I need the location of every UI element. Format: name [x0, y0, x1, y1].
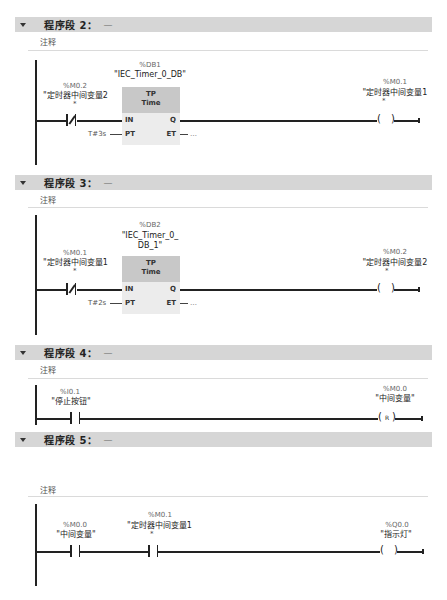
output-coil-icon[interactable]: (): [377, 114, 395, 126]
collapse-triangle-icon[interactable]: [20, 438, 26, 442]
wire: [36, 120, 66, 122]
timer-instance-name[interactable]: "IEC_Timer_0_DB": [105, 70, 195, 79]
pin-et: ET: [166, 130, 176, 138]
contact-address: %I0.1: [45, 388, 95, 397]
network-5-header[interactable]: 程序段 5： —: [15, 432, 432, 447]
network-title: 程序段 2：: [44, 17, 97, 32]
output-coil-icon[interactable]: (): [377, 283, 395, 295]
wire: [36, 551, 70, 553]
timer-type: TP: [122, 90, 180, 98]
separator: [28, 50, 428, 51]
contact1-symbol[interactable]: "中间变量": [45, 530, 107, 539]
contact1-address: %M0.0: [50, 521, 100, 530]
timer-instance-name[interactable]: "IEC_Timer_0_: [105, 231, 195, 240]
symbol-continuation: *: [73, 100, 77, 108]
pin-et: ET: [166, 299, 176, 307]
right-rail-end: [418, 287, 420, 292]
output-coil-icon[interactable]: (): [380, 545, 398, 557]
collapse-triangle-icon[interactable]: [20, 181, 26, 185]
pt-value[interactable]: T#2s: [88, 299, 106, 307]
timer-instance-name-cont[interactable]: DB_1": [105, 241, 195, 250]
collapse-triangle-icon[interactable]: [20, 351, 26, 355]
symbol-continuation: *: [150, 530, 154, 538]
wire: [110, 303, 122, 304]
network-comment[interactable]: 注释: [40, 364, 56, 375]
normally-open-contact-icon[interactable]: [148, 545, 158, 557]
right-rail-end: [422, 549, 424, 554]
collapse-triangle-icon[interactable]: [20, 23, 26, 27]
wire: [80, 551, 148, 553]
right-rail-end: [418, 118, 420, 123]
et-value[interactable]: …: [190, 130, 197, 138]
tp-timer-block[interactable]: TP Time IN PT Q ET: [122, 256, 180, 314]
coil-address: %M0.0: [370, 385, 420, 394]
wire: [36, 289, 66, 291]
coil-symbol[interactable]: "指示灯": [365, 530, 427, 539]
network-comment[interactable]: 注释: [40, 484, 56, 495]
symbol-continuation: *: [73, 267, 77, 275]
pin-q: Q: [170, 116, 176, 124]
coil-address: %M0.2: [370, 248, 420, 257]
wire: [180, 134, 188, 135]
network-title-placeholder[interactable]: —: [103, 178, 112, 188]
timer-header: TP Time: [122, 87, 180, 113]
coil-address: %Q0.0: [372, 521, 422, 530]
wire: [180, 120, 377, 122]
timer-datatype: Time: [122, 99, 180, 107]
coil-symbol[interactable]: "定时器中间变量1: [345, 88, 445, 97]
normally-closed-contact-icon[interactable]: [66, 283, 76, 295]
wire: [394, 120, 418, 122]
wire: [395, 418, 421, 420]
pin-in: IN: [125, 116, 133, 124]
wire: [80, 418, 378, 420]
contact2-address: %M0.1: [135, 511, 185, 520]
timer-header: TP Time: [122, 256, 180, 282]
reset-coil-icon[interactable]: (R): [378, 412, 396, 424]
network-comment[interactable]: 注释: [40, 194, 56, 205]
wire: [397, 551, 422, 553]
pin-pt: PT: [125, 299, 135, 307]
timer-instance-address: %DB2: [120, 221, 180, 230]
coil-symbol[interactable]: "定时器中间变量2: [345, 258, 445, 267]
coil-symbol[interactable]: "中间变量": [355, 394, 435, 403]
normally-closed-contact-icon[interactable]: [66, 114, 76, 126]
left-power-rail: [35, 504, 37, 586]
wire: [180, 289, 377, 291]
network-2-header[interactable]: 程序段 2： —: [15, 17, 432, 32]
contact-address: %M0.1: [45, 249, 105, 258]
symbol-continuation: *: [382, 97, 386, 105]
network-3-header[interactable]: 程序段 3： —: [15, 175, 432, 190]
normally-open-contact-icon[interactable]: [70, 545, 80, 557]
network-title-placeholder[interactable]: —: [103, 435, 112, 445]
network-title: 程序段 4：: [44, 345, 97, 360]
contact2-symbol[interactable]: "定时器中间变量1: [112, 521, 207, 530]
contact-symbol[interactable]: "定时器中间变量1: [28, 258, 123, 267]
network-title: 程序段 5：: [44, 432, 97, 447]
right-rail-end: [421, 416, 423, 421]
pin-in: IN: [125, 285, 133, 293]
network-title-placeholder[interactable]: —: [103, 348, 112, 358]
network-comment[interactable]: 注释: [40, 36, 56, 47]
left-power-rail: [35, 60, 37, 165]
separator: [28, 496, 428, 497]
wire: [77, 289, 123, 291]
left-power-rail: [35, 215, 37, 335]
wire: [158, 551, 380, 553]
network-4-header[interactable]: 程序段 4： —: [15, 345, 432, 360]
wire: [77, 120, 123, 122]
wire: [36, 418, 70, 420]
contact-symbol[interactable]: "定时器中间变量2: [28, 91, 123, 100]
coil-address: %M0.1: [370, 78, 420, 87]
separator: [28, 207, 428, 208]
network-title-placeholder[interactable]: —: [103, 20, 112, 30]
pin-q: Q: [170, 285, 176, 293]
normally-open-contact-icon[interactable]: [70, 412, 80, 424]
tp-timer-block[interactable]: TP Time IN PT Q ET: [122, 87, 180, 145]
et-value[interactable]: …: [190, 299, 197, 307]
contact-address: %M0.2: [45, 82, 105, 91]
pt-value[interactable]: T#3s: [88, 130, 106, 138]
separator: [28, 378, 428, 379]
contact-symbol[interactable]: "停止按钮": [40, 397, 102, 406]
wire: [180, 303, 188, 304]
symbol-continuation: *: [385, 267, 389, 275]
